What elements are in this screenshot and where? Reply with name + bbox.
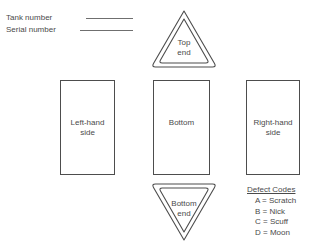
defect-codes-list: A = Scratch B = Nick C = Scuff D = Moon — [247, 196, 296, 238]
serial-number-label: Serial number — [6, 25, 56, 35]
bottom-end-label-line1: Bottom — [150, 199, 218, 209]
bottom-panel-label-group: Bottom — [154, 118, 209, 128]
bottom-end-label-group: Bottom end — [150, 199, 218, 218]
defect-codes-legend-title: Defect Codes — [247, 185, 296, 196]
tank-number-leader-line — [86, 18, 133, 19]
defect-code-item: C = Scuff — [255, 217, 296, 228]
defect-code-item: A = Scratch — [255, 196, 296, 207]
left-hand-side-label-group: Left-hand side — [61, 118, 114, 138]
right-hand-side-label-line1: Right-hand — [247, 118, 299, 128]
right-hand-side-label-line2: side — [247, 128, 299, 138]
defect-code-item: D = Moon — [255, 228, 296, 239]
top-end-label-group: Top end — [150, 38, 218, 57]
bottom-end-label-line2: end — [150, 209, 218, 219]
top-end-label-line2: end — [150, 48, 218, 58]
bottom-end-shape: Bottom end — [150, 183, 218, 245]
defect-codes-legend: Defect Codes A = Scratch B = Nick C = Sc… — [247, 185, 296, 238]
top-end-shape: Top end — [150, 8, 218, 70]
right-hand-side-panel: Right-hand side — [246, 80, 300, 175]
top-end-label-line1: Top — [150, 38, 218, 48]
left-hand-side-label-line2: side — [61, 128, 114, 138]
bottom-panel: Bottom — [153, 80, 210, 175]
left-hand-side-label-line1: Left-hand — [61, 118, 114, 128]
serial-number-leader-line — [80, 30, 133, 31]
tank-number-label: Tank number — [6, 13, 52, 23]
bottom-panel-label-line1: Bottom — [154, 118, 209, 128]
defect-code-item: B = Nick — [255, 207, 296, 218]
right-hand-side-label-group: Right-hand side — [247, 118, 299, 138]
left-hand-side-panel: Left-hand side — [60, 80, 115, 175]
tank-inspection-diagram: Tank number Serial number Top end Left-h… — [0, 0, 313, 252]
